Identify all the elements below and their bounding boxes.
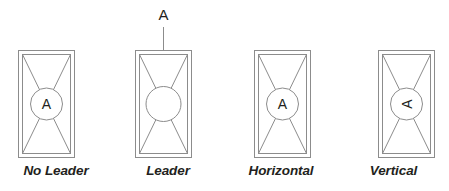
panel-vertical: A Vertical [338, 0, 449, 191]
leader-label: A [158, 6, 168, 23]
leader-options-diagram: A No Leader A Leader [0, 0, 449, 191]
tag-letter: A [399, 99, 415, 109]
tag-letter: A [278, 96, 288, 112]
panel-caption-no-leader: No Leader [0, 163, 112, 178]
tag-letter: A [42, 96, 52, 112]
panel-caption-leader: Leader [112, 163, 224, 178]
panel-caption-vertical: Vertical [338, 163, 449, 178]
panel-leader: A Leader [112, 0, 224, 191]
panel-caption-horizontal: Horizontal [224, 163, 338, 178]
panel-no-leader: A No Leader [0, 0, 112, 191]
panel-horizontal: A Horizontal [224, 0, 338, 191]
tag-circle [146, 87, 181, 122]
